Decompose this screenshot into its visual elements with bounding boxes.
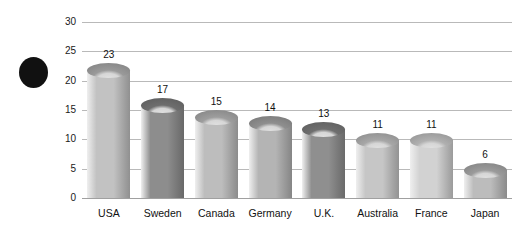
gridline: [82, 198, 512, 199]
y-tick-label: 0: [50, 193, 76, 203]
bar[interactable]: [356, 133, 399, 198]
bar-shape: [87, 63, 130, 198]
bar-shape: [249, 116, 292, 198]
bar-body: [249, 123, 292, 198]
x-axis-category-label: USA: [82, 207, 136, 219]
y-tick-label: 20: [50, 76, 76, 86]
bar-shape: [410, 133, 453, 198]
bar-value-label: 15: [195, 96, 238, 107]
bar-shape: [302, 122, 345, 198]
x-axis-category-label: Germany: [243, 207, 297, 219]
x-axis-category-label: U.K.: [297, 207, 351, 219]
bar-body: [195, 117, 238, 198]
bar-cap: [249, 116, 292, 131]
bar-shape: [195, 110, 238, 198]
bar-value-label: 6: [464, 149, 507, 160]
bar-body: [356, 140, 399, 198]
bar-shape: [464, 163, 507, 198]
bar-value-label: 11: [356, 119, 399, 130]
bar[interactable]: [141, 98, 184, 198]
x-axis-category-label: Sweden: [136, 207, 190, 219]
bar-body: [302, 129, 345, 198]
bar[interactable]: [464, 163, 507, 198]
y-tick-label: 5: [50, 164, 76, 174]
bar-cap: [464, 163, 507, 178]
bar-value-label: 23: [87, 49, 130, 60]
bar[interactable]: [302, 122, 345, 198]
x-axis-category-label: Australia: [351, 207, 405, 219]
bar[interactable]: [195, 110, 238, 198]
bar[interactable]: [249, 116, 292, 198]
y-tick-label: 15: [50, 105, 76, 115]
bar-value-label: 11: [410, 119, 453, 130]
black-dot-marker: [19, 57, 48, 88]
y-tick-label: 10: [50, 134, 76, 144]
plot-area: 051015202530 231715141311116: [82, 22, 512, 198]
bar-shape: [141, 98, 184, 198]
y-tick-label: 30: [50, 17, 76, 27]
bar-chart: Percentage of single-parent families wit…: [0, 0, 530, 231]
bar[interactable]: [87, 63, 130, 198]
bar-value-label: 13: [302, 108, 345, 119]
bar-body: [410, 140, 453, 198]
x-axis-category-label: France: [405, 207, 459, 219]
bar-body: [141, 105, 184, 198]
bar-body: [87, 70, 130, 198]
bar[interactable]: [410, 133, 453, 198]
x-axis-category-label: Canada: [190, 207, 244, 219]
bar-shape: [356, 133, 399, 198]
bar-value-label: 14: [249, 102, 292, 113]
bar-value-label: 17: [141, 84, 184, 95]
bars-layer: 231715141311116: [82, 22, 512, 198]
y-tick-label: 25: [50, 46, 76, 56]
x-axis-category-label: Japan: [458, 207, 512, 219]
bar-cap: [302, 122, 345, 137]
bar-cap: [195, 110, 238, 125]
